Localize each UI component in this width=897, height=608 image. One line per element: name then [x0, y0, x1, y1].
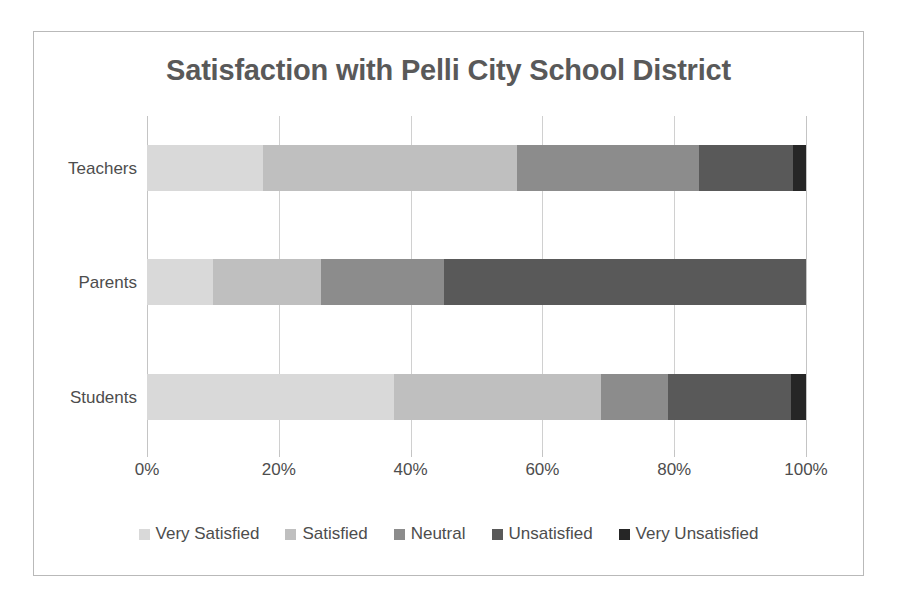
x-tick-mark — [674, 450, 675, 457]
bar-row-teachers — [147, 145, 806, 191]
x-tick-label-40pct: 40% — [394, 460, 428, 480]
gridline-100pct — [806, 116, 807, 450]
bar-segment-parents-unsatisfied — [444, 259, 806, 305]
x-tick-mark — [279, 450, 280, 457]
legend-swatch-icon — [492, 529, 503, 540]
legend-item-very-satisfied[interactable]: Very Satisfied — [139, 524, 260, 544]
bar-row-students — [147, 374, 806, 420]
legend-label: Very Unsatisfied — [636, 524, 759, 544]
legend-item-satisfied[interactable]: Satisfied — [285, 524, 367, 544]
bar-segment-students-very-unsatisfied — [791, 374, 805, 420]
x-tick-label-20pct: 20% — [262, 460, 296, 480]
legend-item-neutral[interactable]: Neutral — [394, 524, 466, 544]
bar-segment-parents-satisfied — [213, 259, 321, 305]
bar-segment-parents-neutral — [321, 259, 444, 305]
bar-segment-teachers-satisfied — [263, 145, 517, 191]
bar-segment-students-very-satisfied — [147, 374, 394, 420]
bar-segment-teachers-unsatisfied — [699, 145, 793, 191]
legend-label: Very Satisfied — [156, 524, 260, 544]
legend-swatch-icon — [285, 529, 296, 540]
chart-legend: Very SatisfiedSatisfiedNeutralUnsatisfie… — [34, 524, 863, 544]
legend-label: Neutral — [411, 524, 466, 544]
x-tick-mark — [147, 450, 148, 457]
legend-swatch-icon — [139, 529, 150, 540]
bar-segment-students-neutral — [601, 374, 668, 420]
legend-label: Unsatisfied — [509, 524, 593, 544]
chart-container: Satisfaction with Pelli City School Dist… — [33, 31, 864, 576]
legend-item-unsatisfied[interactable]: Unsatisfied — [492, 524, 593, 544]
x-tick-mark — [411, 450, 412, 457]
bar-segment-students-unsatisfied — [668, 374, 791, 420]
x-axis: 0%20%40%60%80%100% — [147, 450, 806, 484]
bar-segment-teachers-neutral — [517, 145, 699, 191]
bar-segment-students-satisfied — [394, 374, 601, 420]
y-axis-category-labels: Teachers Parents Students — [34, 116, 137, 450]
legend-label: Satisfied — [302, 524, 367, 544]
x-tick-label-60pct: 60% — [525, 460, 559, 480]
plot-area — [147, 116, 806, 450]
x-tick-mark — [806, 450, 807, 457]
x-tick-label-80pct: 80% — [657, 460, 691, 480]
bar-segment-teachers-very-satisfied — [147, 145, 263, 191]
bar-segment-parents-very-satisfied — [147, 259, 213, 305]
x-tick-mark — [542, 450, 543, 457]
legend-swatch-icon — [619, 529, 630, 540]
legend-item-very-unsatisfied[interactable]: Very Unsatisfied — [619, 524, 759, 544]
y-axis-label-parents: Parents — [37, 273, 137, 293]
y-axis-label-students: Students — [37, 388, 137, 408]
x-tick-label-0pct: 0% — [135, 460, 160, 480]
chart-title: Satisfaction with Pelli City School Dist… — [34, 54, 863, 87]
bar-segment-teachers-very-unsatisfied — [793, 145, 806, 191]
bar-row-parents — [147, 259, 806, 305]
legend-swatch-icon — [394, 529, 405, 540]
y-axis-label-teachers: Teachers — [37, 159, 137, 179]
x-tick-label-100pct: 100% — [784, 460, 827, 480]
